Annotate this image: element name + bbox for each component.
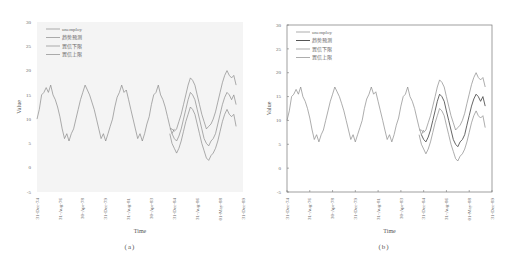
y-tick-label: 0 xyxy=(29,165,32,170)
y-tick-label: 30 xyxy=(276,23,282,28)
x-tick-label: 31-Dec-84 xyxy=(421,198,426,220)
y-tick-label: 30 xyxy=(26,20,32,25)
x-tick-label: 31-Dec-84 xyxy=(172,198,177,220)
y-axis-title: Value xyxy=(266,101,272,115)
x-tick-label: 31-Aug-76 xyxy=(307,198,312,220)
y-tick-label: 0 xyxy=(279,166,282,171)
y-tick-label: 5 xyxy=(279,142,282,147)
y-tick-label: 10 xyxy=(26,117,32,122)
x-axis-title: Time xyxy=(383,228,396,234)
line-chart-a: -505101520253031-Dec-7431-Aug-7630-Apr-7… xyxy=(0,0,254,273)
x-tick-label: 31-Dec-89 xyxy=(241,198,246,220)
caption-a: (a) xyxy=(110,243,150,251)
x-tick-label: 31-Aug-81 xyxy=(376,198,381,220)
legend-label: 置信下限 xyxy=(312,46,332,53)
x-tick-label: 31-Dec-89 xyxy=(490,198,495,220)
y-tick-label: 20 xyxy=(26,68,32,73)
x-tick-label: 30-Apr-78 xyxy=(80,198,85,220)
x-tick-label: 31-Dec-74 xyxy=(35,198,40,220)
y-tick-label: -5 xyxy=(27,190,32,195)
x-tick-label: 31-Aug-81 xyxy=(126,198,131,220)
line-chart-b: -505101520253031-Dec-7431-Aug-7630-Apr-7… xyxy=(254,0,508,273)
chart-panel-a: -505101520253031-Dec-7431-Aug-7630-Apr-7… xyxy=(0,0,254,273)
y-tick-label: 25 xyxy=(276,47,282,52)
x-tick-label: 31-Aug-86 xyxy=(444,198,449,220)
legend-label: 置信上限 xyxy=(312,54,332,61)
series-unemploy xyxy=(287,87,424,142)
x-tick-label: 31-Dec-79 xyxy=(103,198,108,220)
y-tick-label: -5 xyxy=(277,190,282,195)
y-tick-label: 10 xyxy=(276,118,282,123)
y-axis-title: Value xyxy=(16,100,22,114)
y-tick-label: 5 xyxy=(29,141,32,146)
chart-panel-b: -505101520253031-Dec-7431-Aug-7630-Apr-7… xyxy=(254,0,508,273)
y-tick-label: 15 xyxy=(26,93,32,98)
y-tick-label: 20 xyxy=(276,70,282,75)
y-tick-label: 25 xyxy=(26,44,32,49)
x-tick-label: 01-May-88 xyxy=(218,198,223,221)
x-tick-label: 01-May-88 xyxy=(467,198,472,221)
x-tick-label: 30-Apr-83 xyxy=(149,198,154,220)
legend-label: 趋势预测 xyxy=(312,37,332,44)
y-tick-label: 15 xyxy=(276,94,282,99)
x-tick-label: 30-Apr-83 xyxy=(399,198,404,220)
caption-b: (b) xyxy=(364,243,404,251)
x-tick-label: 30-Apr-78 xyxy=(330,198,335,220)
x-axis-title: Time xyxy=(134,228,147,234)
x-tick-label: 31-Dec-79 xyxy=(353,198,358,220)
x-tick-label: 31-Aug-76 xyxy=(58,198,63,220)
x-tick-label: 31-Dec-74 xyxy=(285,198,290,220)
series-upper-bound xyxy=(419,73,485,133)
legend-label: 置信上限 xyxy=(62,51,82,58)
legend-label: unemploy xyxy=(312,30,332,35)
legend-label: 置信下限 xyxy=(62,43,82,50)
legend-label: 趋势预测 xyxy=(62,34,82,41)
legend-label: unemploy xyxy=(62,27,82,32)
x-tick-label: 31-Aug-86 xyxy=(195,198,200,220)
